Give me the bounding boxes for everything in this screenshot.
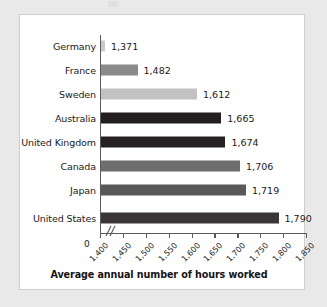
top-edge-artifact (108, 1, 118, 7)
category-label: Germany (53, 41, 96, 52)
x-axis-tick (146, 233, 147, 238)
category-label: United Kingdom (21, 137, 96, 148)
chart-panel: Germany 1,371 France 1,482 Sweden 1,612 … (19, 14, 305, 290)
x-axis-tick (260, 233, 261, 238)
x-axis-tick (306, 233, 307, 238)
bar (100, 137, 225, 148)
x-axis-tick-label: 1,600 (179, 241, 202, 264)
x-axis-tick (123, 233, 124, 238)
bar (100, 185, 246, 196)
x-axis-tick (214, 233, 215, 238)
bar-row: Australia 1,665 (20, 107, 304, 129)
x-axis-tick-label: 1,650 (202, 241, 225, 264)
bar-row: France 1,482 (20, 59, 304, 81)
category-label: Japan (70, 185, 96, 196)
bar (100, 65, 138, 76)
bar (100, 213, 279, 224)
value-label: 1,612 (203, 89, 230, 100)
x-axis-tick-label: 1,700 (225, 241, 248, 264)
x-axis-tick (169, 233, 170, 238)
x-axis-line (100, 233, 306, 234)
x-axis-tick-label: 1,800 (271, 241, 294, 264)
axis-break-icon (104, 225, 118, 237)
x-axis-tick-label: 1,500 (134, 241, 157, 264)
x-axis-tick-label: 1,850 (294, 241, 317, 264)
plot-area: Germany 1,371 France 1,482 Sweden 1,612 … (20, 15, 304, 289)
bar (100, 161, 240, 172)
x-axis-tick (237, 233, 238, 238)
bar-row: Japan 1,719 (20, 179, 304, 201)
value-label: 1,790 (285, 213, 312, 224)
bar-row: United Kingdom 1,674 (20, 131, 304, 153)
value-label: 1,482 (144, 65, 171, 76)
bar-row: United States 1,790 (20, 207, 304, 229)
x-axis-tick (192, 233, 193, 238)
bar (100, 113, 221, 124)
value-label: 1,674 (231, 137, 258, 148)
x-axis-tick-label: 1,400 (88, 241, 111, 264)
x-axis-tick-label: 1,550 (156, 241, 179, 264)
bar (100, 89, 197, 100)
value-label: 1,371 (111, 41, 138, 52)
value-label: 1,665 (227, 113, 254, 124)
x-axis-tick-label: 1,750 (248, 241, 271, 264)
x-axis-tick (283, 233, 284, 238)
bar-row: Germany 1,371 (20, 35, 304, 57)
category-label: France (65, 65, 96, 76)
category-label: Australia (55, 113, 96, 124)
bar-row: Canada 1,706 (20, 155, 304, 177)
x-axis-title: Average annual number of hours worked (20, 269, 298, 280)
category-label: Canada (60, 161, 96, 172)
x-axis-tick-label: 1,450 (111, 241, 134, 264)
y-axis-line (100, 35, 101, 233)
category-label: United States (33, 213, 96, 224)
bar-row: Sweden 1,612 (20, 83, 304, 105)
x-axis-tick (100, 233, 101, 238)
value-label: 1,706 (246, 161, 273, 172)
origin-tick-label: 0 (84, 239, 90, 249)
category-label: Sweden (59, 89, 96, 100)
value-label: 1,719 (252, 185, 279, 196)
